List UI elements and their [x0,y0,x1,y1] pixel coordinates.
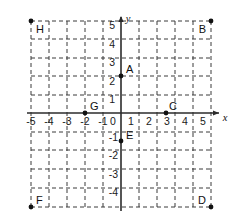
x-tick-4: 4 [182,115,188,127]
x-tick-0: 0 [110,115,116,127]
y-tick--1: -1 [109,131,118,143]
point-label-D: D [198,194,206,206]
point-dot-G[interactable] [83,111,88,116]
coordinate-plane-figure: -5 -4 -3 -2 -1 0 1 2 3 4 5 5 4 3 2 1 -1 … [0,0,243,223]
point-dot-D[interactable] [209,205,214,210]
x-tick--2: -2 [80,115,89,127]
point-label-G: G [90,100,99,112]
y-tick--3: -3 [109,168,118,180]
point-label-C: C [169,100,177,112]
point-dot-B[interactable] [209,19,214,24]
x-tick-5: 5 [200,115,206,127]
coordinate-grid: -5 -4 -3 -2 -1 0 1 2 3 4 5 5 4 3 2 1 -1 … [0,0,243,223]
y-tick-1: 1 [109,93,115,105]
point-dot-A[interactable] [119,74,124,79]
point-dot-C[interactable] [164,111,169,116]
point-dot-H[interactable] [29,19,34,24]
point-label-E: E [126,129,133,141]
y-tick--4: -4 [109,186,118,198]
point-label-A: A [126,63,134,75]
y-axis-label: y [125,13,131,24]
point-label-H: H [36,23,44,35]
y-tick-labels: 5 4 3 2 1 -1 -2 -3 -4 [109,19,118,198]
x-tick-2: 2 [146,115,152,127]
y-tick-5: 5 [109,19,115,31]
x-tick--4: -4 [44,115,53,127]
point-label-F: F [36,194,43,206]
y-tick-3: 3 [109,56,115,68]
point-dot-F[interactable] [29,205,34,210]
x-tick--5: -5 [26,115,35,127]
y-axis-arrow [118,16,123,22]
y-tick-4: 4 [109,38,115,50]
y-tick--2: -2 [109,149,118,161]
point-label-B: B [199,23,206,35]
x-axis-arrow [213,110,219,115]
x-axis-label: x [222,112,228,123]
axes [27,16,219,211]
x-tick-labels: -5 -4 -3 -2 -1 0 1 2 3 4 5 [26,115,206,127]
x-tick--3: -3 [62,115,71,127]
x-tick-3: 3 [164,115,170,127]
point-dot-E[interactable] [119,139,124,144]
x-tick-1: 1 [128,115,134,127]
x-tick--1: -1 [98,115,107,127]
y-tick-2: 2 [109,75,115,87]
